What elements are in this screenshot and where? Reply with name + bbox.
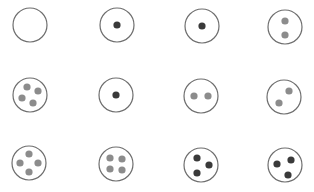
gray-dot bbox=[34, 159, 41, 166]
dark-dot bbox=[273, 160, 280, 167]
circle-outline bbox=[184, 148, 218, 182]
dot-circle-diagram bbox=[0, 0, 314, 192]
dark-dot bbox=[113, 21, 120, 28]
dot-circle-1 bbox=[13, 8, 47, 42]
dark-dot bbox=[198, 22, 205, 29]
circle-outline bbox=[99, 147, 133, 181]
dark-dot bbox=[284, 171, 291, 178]
gray-dot bbox=[118, 155, 125, 162]
circle-outline bbox=[13, 8, 47, 42]
gray-dot bbox=[25, 150, 32, 157]
circle-outline bbox=[267, 80, 301, 114]
dot-circle-8 bbox=[267, 80, 301, 114]
dot-circle-7 bbox=[184, 79, 218, 113]
dark-dot bbox=[193, 154, 200, 161]
dark-dot bbox=[112, 91, 119, 98]
gray-dot bbox=[29, 99, 36, 106]
circle-outline bbox=[268, 10, 302, 44]
gray-dot bbox=[190, 92, 197, 99]
gray-dot bbox=[285, 87, 292, 94]
dot-circle-2 bbox=[100, 8, 134, 42]
dot-circle-10 bbox=[99, 147, 133, 181]
gray-dot bbox=[118, 166, 125, 173]
gray-dot bbox=[275, 99, 282, 106]
gray-dot bbox=[106, 154, 113, 161]
gray-dot bbox=[34, 87, 41, 94]
dot-circle-6 bbox=[99, 78, 133, 112]
dark-dot bbox=[205, 161, 212, 168]
gray-dot bbox=[204, 92, 211, 99]
dot-circle-4 bbox=[268, 10, 302, 44]
gray-dot bbox=[281, 17, 288, 24]
gray-dot bbox=[18, 94, 25, 101]
circle-outline bbox=[184, 79, 218, 113]
gray-dot bbox=[281, 31, 288, 38]
dark-dot bbox=[287, 156, 294, 163]
gray-dot bbox=[16, 159, 23, 166]
circle-outline bbox=[13, 78, 47, 112]
dot-circle-11 bbox=[184, 148, 218, 182]
gray-dot bbox=[25, 168, 32, 175]
gray-dot bbox=[23, 83, 30, 90]
dot-circle-12 bbox=[268, 148, 302, 182]
dot-circle-3 bbox=[185, 9, 219, 43]
dot-circle-9 bbox=[12, 146, 46, 180]
dark-dot bbox=[193, 169, 200, 176]
dot-circle-5 bbox=[13, 78, 47, 112]
gray-dot bbox=[106, 165, 113, 172]
